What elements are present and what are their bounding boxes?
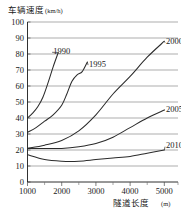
x-axis-tick-labels: 10002000300040005000 xyxy=(19,186,173,196)
x-axis-title-unit: (m) xyxy=(161,200,170,208)
y-tick-label-90: 90 xyxy=(16,33,25,43)
x-axis-title: 隧道长度 xyxy=(113,198,149,208)
series-label-2000: 2000 xyxy=(166,36,181,46)
series-labels: 19901995200020052010 xyxy=(53,36,181,150)
series-leader-2010 xyxy=(164,147,165,150)
series-label-2005: 2005 xyxy=(166,104,181,114)
y-axis-tickmarks xyxy=(28,22,31,182)
y-axis-title: 车辆速度 xyxy=(8,5,44,15)
series-leader-1995 xyxy=(87,62,88,65)
series-label-1990: 1990 xyxy=(53,46,70,56)
y-tick-label-20: 20 xyxy=(16,145,25,155)
y-tick-label-50: 50 xyxy=(16,97,25,107)
x-tick-label-5000: 5000 xyxy=(156,186,173,196)
series-curve-1990 xyxy=(28,52,59,118)
y-tick-label-30: 30 xyxy=(16,129,25,139)
series-label-1995: 1995 xyxy=(89,59,106,69)
y-tick-label-80: 80 xyxy=(16,49,25,59)
y-tick-label-100: 100 xyxy=(11,17,24,27)
series-curve-2000 xyxy=(28,41,165,148)
series-label-2010: 2010 xyxy=(166,140,181,150)
series-curve-2005 xyxy=(28,110,165,149)
x-tick-label-1000: 1000 xyxy=(19,186,36,196)
y-axis-tick-labels: 0102030405060708090100 xyxy=(11,17,24,187)
vehicle-speed-tunnel-length-chart: 车辆速度 (km/h) 0102030405060708090100 10002… xyxy=(0,0,181,211)
chart-canvas: 车辆速度 (km/h) 0102030405060708090100 10002… xyxy=(0,0,181,211)
x-tick-label-4000: 4000 xyxy=(122,186,139,196)
y-tick-label-70: 70 xyxy=(16,65,25,75)
x-tick-label-3000: 3000 xyxy=(87,186,104,196)
y-tick-label-10: 10 xyxy=(16,161,25,171)
y-axis-title-unit: (km/h) xyxy=(45,7,63,15)
series-curve-1995 xyxy=(28,62,88,132)
series-leader-2000 xyxy=(164,41,165,43)
y-tick-label-60: 60 xyxy=(16,81,25,91)
x-tick-label-2000: 2000 xyxy=(53,186,70,196)
series-curve-2010 xyxy=(28,150,165,161)
y-tick-label-40: 40 xyxy=(16,113,25,123)
